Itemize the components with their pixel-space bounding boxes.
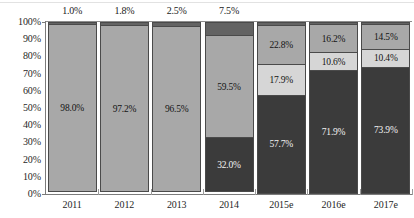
bar-total-callout-label: 7.5% [205, 6, 254, 16]
stacked-bar[interactable]: 98.0% [48, 22, 97, 194]
bar-segment-value-label: 73.9% [374, 125, 398, 135]
y-axis-tick-mark [42, 194, 46, 195]
bar-segment[interactable]: 10.4% [361, 49, 410, 67]
bar-segment-value-label: 97.2% [113, 104, 137, 114]
x-axis-category-separator [307, 189, 308, 195]
bar-segment-value-label: 14.5% [374, 32, 398, 42]
bar-segment-value-label: 98.0% [60, 103, 84, 113]
y-axis-tick-label: 30% [0, 137, 41, 147]
bar-segment-value-label: 22.8% [270, 40, 294, 50]
x-axis-category-label: 2016e [309, 199, 358, 210]
x-axis-category-separator [98, 189, 99, 195]
bar-segment[interactable]: 17.9% [257, 64, 306, 95]
y-axis-tick-label: 50% [0, 103, 41, 113]
stacked-bar[interactable]: 59.5%32.0% [205, 22, 254, 194]
x-axis-category-label: 2013 [152, 199, 201, 210]
bar-segment-value-label: 32.0% [217, 160, 241, 170]
y-axis-tick-label: 40% [0, 120, 41, 130]
stacked-bar[interactable]: 16.2%10.6%71.9% [309, 22, 358, 194]
bar-segment-value-label: 16.2% [322, 34, 346, 44]
bar-total-callout-label: 1.0% [48, 6, 97, 16]
stacked-bar-chart: 100%90%80%70%60%50%40%30%20%10%0% 98.0%1… [0, 0, 414, 218]
bar-segment[interactable]: 57.7% [257, 95, 306, 194]
bar-group: 22.8%17.9%57.7%2015e [257, 0, 306, 218]
bar-segment[interactable]: 32.0% [205, 137, 254, 192]
x-axis-category-label: 2015e [257, 199, 306, 210]
stacked-bar[interactable]: 97.2% [100, 22, 149, 194]
y-axis-tick-label: 80% [0, 51, 41, 61]
bar-segment[interactable] [205, 22, 254, 35]
x-axis-category-label: 2011 [48, 199, 97, 210]
bar-segment-value-label: 71.9% [322, 127, 346, 137]
bar-segment[interactable]: 71.9% [309, 70, 358, 194]
bar-segment-value-label: 17.9% [270, 75, 294, 85]
bar-segment[interactable]: 97.2% [100, 25, 149, 192]
bar-segment[interactable]: 73.9% [361, 67, 410, 194]
y-axis-tick-label: 20% [0, 155, 41, 165]
bar-segment[interactable]: 98.0% [48, 24, 97, 193]
bar-segment-value-label: 10.6% [322, 57, 346, 67]
bar-segment[interactable]: 22.8% [257, 25, 306, 64]
y-axis-tick-label: 60% [0, 86, 41, 96]
bar-group: 96.5%2.5%2013 [152, 0, 201, 218]
stacked-bar[interactable]: 22.8%17.9%57.7% [257, 22, 306, 194]
bar-segment-value-label: 10.4% [374, 53, 398, 63]
bar-segment-value-label: 96.5% [165, 104, 189, 114]
bar-segment[interactable]: 96.5% [152, 26, 201, 192]
bar-total-callout-label: 2.5% [152, 6, 201, 16]
y-axis-tick-label: 0% [0, 189, 41, 199]
y-axis-tick-label: 100% [0, 17, 41, 27]
bar-group: 97.2%1.8%2012 [100, 0, 149, 218]
y-axis-tick-label: 10% [0, 172, 41, 182]
stacked-bar[interactable]: 14.5%10.4%73.9% [361, 22, 410, 194]
y-axis-tick-labels: 100%90%80%70%60%50%40%30%20%10%0% [0, 0, 41, 218]
bar-segment-value-label: 59.5% [217, 82, 241, 92]
bar-segment[interactable]: 14.5% [361, 24, 410, 49]
y-axis-tick-mark [42, 22, 46, 23]
stacked-bar[interactable]: 96.5% [152, 22, 201, 194]
bar-segment[interactable]: 16.2% [309, 24, 358, 52]
bar-total-callout-label: 1.8% [100, 6, 149, 16]
x-axis-category-separator [412, 189, 413, 195]
bar-group: 14.5%10.4%73.9%2017e [361, 0, 410, 218]
x-axis-category-label: 2012 [100, 199, 149, 210]
x-axis-category-label: 2014 [205, 199, 254, 210]
y-axis-tick-label: 90% [0, 34, 41, 44]
x-axis-category-label: 2017e [361, 199, 410, 210]
bar-group: 16.2%10.6%71.9%2016e [309, 0, 358, 218]
bar-group: 98.0%1.0%2011 [48, 0, 97, 218]
bar-segment[interactable]: 59.5% [205, 35, 254, 137]
y-axis-tick-label: 70% [0, 69, 41, 79]
bar-segment[interactable]: 10.6% [309, 52, 358, 70]
bar-segment-value-label: 57.7% [270, 139, 294, 149]
bar-group: 59.5%32.0%7.5%2014 [205, 0, 254, 218]
